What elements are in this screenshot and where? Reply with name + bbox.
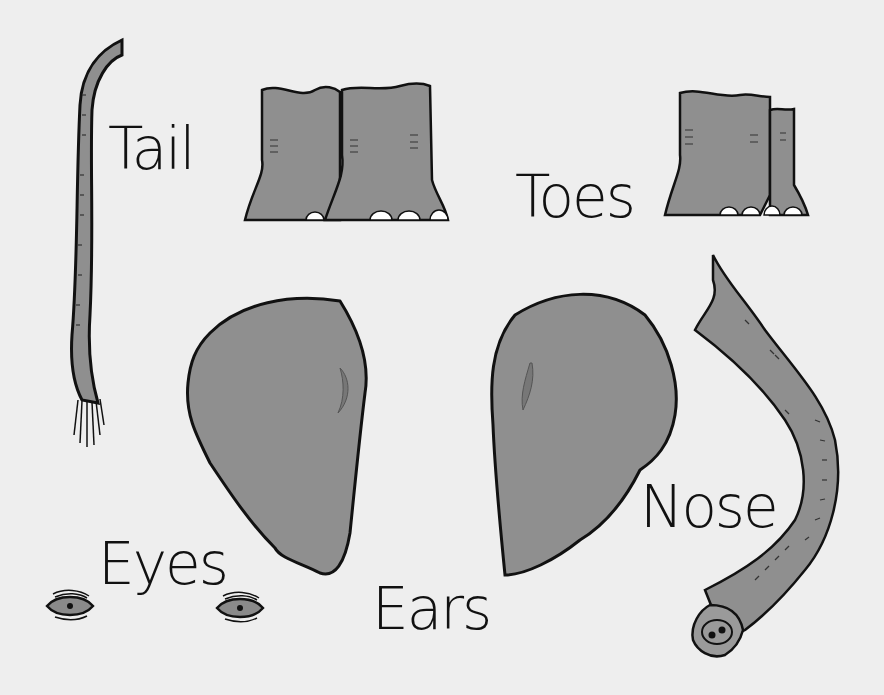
eye-left-illustration — [45, 588, 95, 624]
eye-right-illustration — [215, 590, 265, 626]
label-nose: Nose — [640, 478, 777, 536]
feet-front-illustration — [240, 80, 460, 225]
label-ears: Ears — [372, 580, 490, 638]
label-toes: Toes — [515, 168, 634, 226]
label-tail: Tail — [108, 120, 194, 178]
feet-back-illustration — [660, 85, 830, 220]
tail-illustration — [60, 35, 140, 455]
label-eyes: Eyes — [98, 535, 227, 593]
trunk-illustration — [685, 250, 865, 670]
